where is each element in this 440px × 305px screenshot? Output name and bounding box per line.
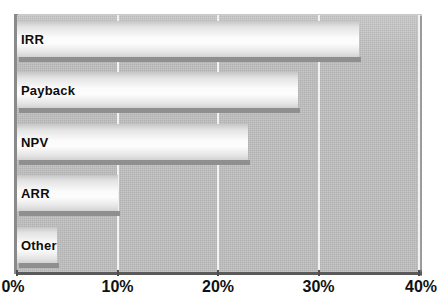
x-tick-30% — [318, 270, 320, 276]
bar-npv — [17, 124, 248, 160]
bar-shadow-payback — [19, 108, 300, 113]
bar-shadow-other — [19, 263, 59, 268]
bar-label-other: Other — [21, 239, 57, 252]
x-tick-label-0%: 0% — [1, 279, 24, 295]
bar-shadow-npv — [19, 160, 250, 165]
bar-chart: IRRPaybackNPVARROther 0%10%20%30%40% — [0, 0, 440, 305]
gridline-40% — [418, 15, 420, 272]
x-axis-line — [16, 272, 422, 275]
bar-label-payback: Payback — [21, 84, 75, 97]
x-tick-20% — [217, 270, 219, 276]
bar-irr — [17, 21, 359, 57]
bar-label-arr: ARR — [21, 187, 50, 200]
x-tick-label-30%: 30% — [302, 279, 334, 295]
bar-label-irr: IRR — [21, 33, 44, 46]
bar-shadow-arr — [19, 211, 120, 216]
x-tick-0% — [16, 270, 18, 276]
bar-label-npv: NPV — [21, 136, 48, 149]
plot-area: IRRPaybackNPVARROther — [17, 15, 420, 272]
bar-shadow-irr — [19, 57, 361, 62]
plot-frame: IRRPaybackNPVARROther — [14, 14, 422, 274]
x-tick-10% — [117, 270, 119, 276]
x-tick-label-20%: 20% — [202, 279, 234, 295]
x-tick-label-40%: 40% — [405, 279, 437, 295]
x-tick-label-10%: 10% — [101, 279, 133, 295]
x-tick-40% — [418, 270, 420, 276]
